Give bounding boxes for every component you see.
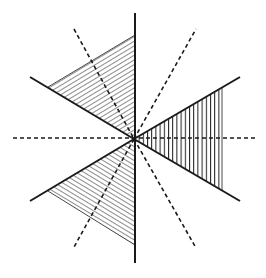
right-wedge xyxy=(134,88,222,190)
upper-left-wedge xyxy=(48,35,135,139)
lower-left-wedge xyxy=(48,139,135,245)
star-diagram xyxy=(0,0,266,278)
